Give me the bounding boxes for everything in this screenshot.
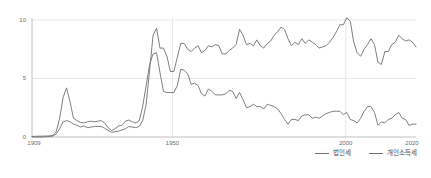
gridlines — [32, 18, 416, 137]
x-tick-labels: 1909 1950 2000 2020 — [27, 140, 419, 146]
legend-item-corporate-tax[interactable]: 법인세 — [315, 150, 351, 157]
y-tick-label-10: 10 — [19, 17, 26, 23]
series-line-corporate-tax — [32, 53, 416, 137]
legend-line-icon — [315, 153, 329, 154]
legend-label-income-tax: 개인소득세 — [387, 150, 417, 157]
series-line-income-tax — [32, 18, 416, 137]
x-tick-label-2020: 2020 — [405, 140, 419, 146]
data-series-group — [32, 18, 416, 137]
y-tick-label-5: 5 — [23, 75, 27, 81]
x-tick-label-2000: 2000 — [339, 140, 353, 146]
line-chart: 10 5 0 1909 1950 2000 2020 법인세 개인소득세 — [0, 0, 431, 178]
y-tick-labels: 10 5 0 — [19, 17, 26, 140]
legend-item-income-tax[interactable]: 개인소득세 — [369, 150, 417, 157]
legend-line-icon — [369, 153, 383, 154]
x-tick-label-1950: 1950 — [166, 140, 180, 146]
legend-label-corporate-tax: 법인세 — [333, 150, 351, 157]
chart-legend: 법인세 개인소득세 — [0, 150, 431, 157]
y-tick-label-0: 0 — [23, 134, 27, 140]
axis-lines — [32, 18, 416, 137]
x-tick-label-1909: 1909 — [27, 140, 41, 146]
